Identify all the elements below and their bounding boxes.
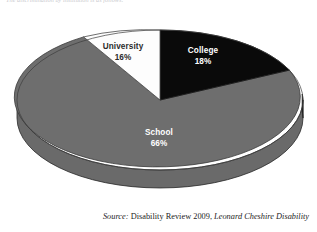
source-label: Source: bbox=[103, 212, 129, 221]
slice-label-school-name: School bbox=[145, 128, 173, 137]
slice-label-university: University 16% bbox=[84, 41, 162, 63]
chart-plot-area: University 16% College 18% School 66% bbox=[0, 8, 317, 200]
slice-label-school-value: 66% bbox=[123, 138, 195, 149]
source-publication: Disability Review 2009, bbox=[129, 212, 212, 221]
pie-chart-figure: The discrimination by institution is as … bbox=[0, 0, 317, 232]
slice-label-college-value: 18% bbox=[172, 56, 234, 67]
source-organisation: Leonard Cheshire Disability bbox=[212, 212, 309, 221]
slice-label-university-name: University bbox=[103, 42, 144, 51]
slice-label-college: College 18% bbox=[172, 45, 234, 67]
slice-label-college-name: College bbox=[188, 46, 218, 55]
slice-label-school: School 66% bbox=[123, 127, 195, 149]
pie-chart-svg bbox=[0, 8, 317, 200]
source-attribution: Source: Disability Review 2009, Leonard … bbox=[0, 212, 309, 221]
slice-label-university-value: 16% bbox=[84, 52, 162, 63]
figure-top-caption: The discrimination by institution is as … bbox=[6, 0, 246, 4]
